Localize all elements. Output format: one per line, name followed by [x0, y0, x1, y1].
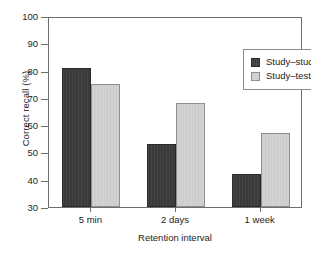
y-tick-label: 30 — [0, 202, 38, 213]
bar-chart-figure: Correct recall (%) 10090807060504030 Stu… — [0, 0, 311, 258]
legend-label-study-study: Study–study — [266, 56, 311, 68]
bar-study-test-0 — [91, 84, 120, 207]
y-tick-label: 60 — [0, 120, 38, 131]
y-axis-title: Correct recall (%) — [20, 29, 31, 189]
x-tick-mark — [90, 208, 91, 212]
y-tick-mark — [41, 99, 48, 100]
x-tick-mark — [175, 208, 176, 212]
x-tick-label: 1 week — [217, 214, 303, 225]
y-tick-mark — [41, 17, 48, 18]
plot-area: Study–study Study–test — [48, 17, 302, 208]
bar-study-test-2 — [261, 133, 290, 207]
y-tick-label: 70 — [0, 93, 38, 104]
y-tick-label: 50 — [0, 147, 38, 158]
y-tick-mark — [41, 72, 48, 73]
y-tick-mark — [41, 208, 48, 209]
y-tick-mark — [41, 153, 48, 154]
legend-item-study-study: Study–study — [244, 55, 311, 69]
x-axis-title: Retention interval — [48, 232, 302, 243]
x-tick-label: 2 days — [132, 214, 218, 225]
y-tick-label: 80 — [0, 66, 38, 77]
y-tick-mark — [41, 44, 48, 45]
x-tick-label: 5 min — [47, 214, 133, 225]
y-tick-label: 100 — [0, 11, 38, 22]
legend-swatch-study-study — [251, 58, 260, 67]
y-tick-label: 90 — [0, 38, 38, 49]
x-tick-mark — [260, 208, 261, 212]
y-tick-mark — [41, 181, 48, 182]
bar-study-study-0 — [62, 68, 91, 207]
legend-item-study-test: Study–test — [244, 69, 311, 83]
legend-swatch-study-test — [251, 72, 260, 81]
bar-study-study-1 — [147, 144, 176, 207]
bar-study-study-2 — [232, 174, 261, 207]
legend-label-study-test: Study–test — [266, 70, 311, 82]
chart-legend: Study–study Study–test — [243, 49, 311, 90]
bar-study-test-1 — [176, 103, 205, 207]
y-tick-label: 40 — [0, 175, 38, 186]
y-tick-mark — [41, 126, 48, 127]
